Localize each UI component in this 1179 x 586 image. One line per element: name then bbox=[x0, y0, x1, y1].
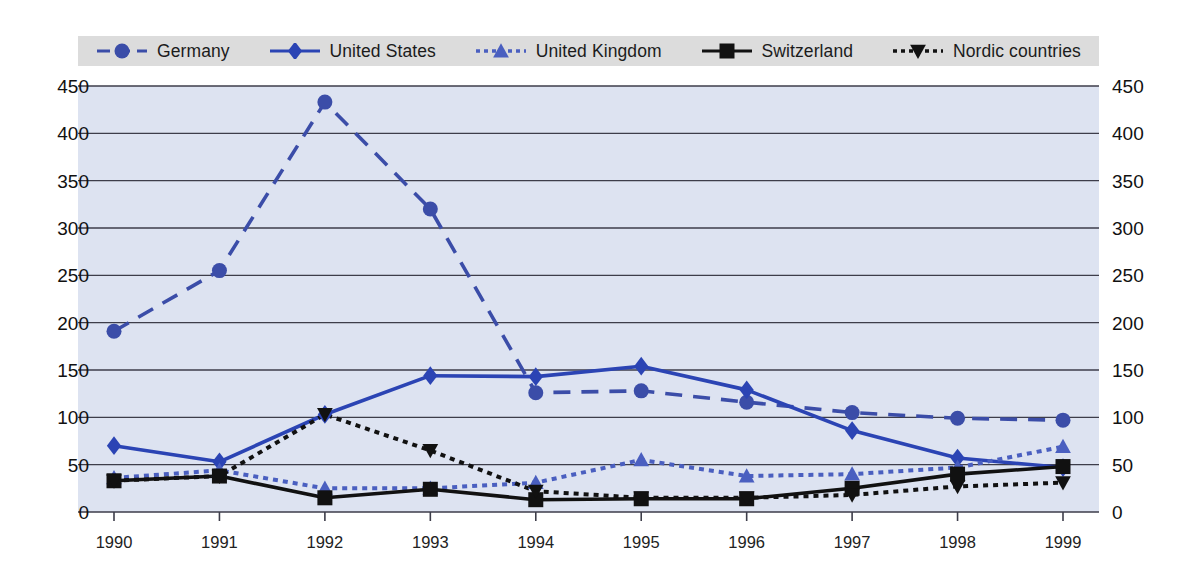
y-axis-tick-label-left: 200 bbox=[29, 314, 89, 333]
plot-canvas bbox=[78, 86, 1099, 512]
data-point-marker bbox=[212, 263, 227, 278]
legend-swatch-triangle-down-icon bbox=[892, 43, 944, 59]
y-axis-tick-label-left: 250 bbox=[29, 266, 89, 285]
data-point-marker bbox=[740, 381, 754, 400]
x-axis-tick-label: 1999 bbox=[1028, 533, 1098, 552]
y-axis-tick-label-right: 200 bbox=[1112, 314, 1172, 333]
chart-legend: GermanyUnited StatesUnited KingdomSwitze… bbox=[78, 36, 1099, 66]
legend-swatch-circle-icon bbox=[96, 43, 148, 59]
y-axis-tick-label-left: 0 bbox=[29, 503, 89, 522]
legend-swatch-square-icon bbox=[701, 43, 753, 59]
y-axis-tick-label-right: 450 bbox=[1112, 77, 1172, 96]
x-axis-tick-label: 1992 bbox=[290, 533, 360, 552]
y-axis-tick-label-right: 150 bbox=[1112, 361, 1172, 380]
legend-label: Nordic countries bbox=[953, 41, 1081, 62]
data-point-marker bbox=[423, 482, 438, 497]
y-axis-tick-label-right: 350 bbox=[1112, 172, 1172, 191]
x-axis-tick-label: 1991 bbox=[184, 533, 254, 552]
x-axis-tick-label: 1995 bbox=[606, 533, 676, 552]
legend-label: United Kingdom bbox=[536, 41, 662, 62]
y-axis-tick-label-left: 50 bbox=[29, 456, 89, 475]
data-point-marker bbox=[845, 421, 859, 440]
data-point-marker bbox=[423, 366, 437, 385]
legend-swatch-triangle-up-icon bbox=[475, 43, 527, 59]
y-axis-tick-label-left: 300 bbox=[29, 219, 89, 238]
x-axis-tick-label: 1996 bbox=[712, 533, 782, 552]
data-point-marker bbox=[423, 202, 438, 217]
data-point-marker bbox=[634, 383, 649, 398]
data-point-marker bbox=[950, 480, 966, 494]
x-axis-tick-label: 1993 bbox=[395, 533, 465, 552]
data-point-marker bbox=[317, 490, 332, 505]
y-axis-tick-label-right: 100 bbox=[1112, 408, 1172, 427]
data-point-marker bbox=[528, 385, 543, 400]
legend-item-united-kingdom[interactable]: United Kingdom bbox=[475, 41, 662, 62]
legend-label: United States bbox=[330, 41, 436, 62]
x-axis-tick-label: 1998 bbox=[923, 533, 993, 552]
data-point-marker bbox=[107, 324, 122, 339]
y-axis-tick-label-right: 400 bbox=[1112, 124, 1172, 143]
data-point-marker bbox=[287, 43, 301, 59]
y-axis-tick-label-right: 300 bbox=[1112, 219, 1172, 238]
legend-item-united-states[interactable]: United States bbox=[269, 41, 436, 62]
y-axis-tick-label-left: 150 bbox=[29, 361, 89, 380]
plot-area bbox=[78, 86, 1099, 512]
data-point-marker bbox=[950, 467, 965, 482]
data-point-marker bbox=[634, 357, 648, 376]
data-point-marker bbox=[107, 436, 121, 455]
data-point-marker bbox=[719, 44, 734, 59]
legend-item-switzerland[interactable]: Switzerland bbox=[701, 41, 854, 62]
y-axis-tick-label-right: 50 bbox=[1112, 456, 1172, 475]
legend-item-nordic-countries[interactable]: Nordic countries bbox=[892, 41, 1081, 62]
y-axis-tick-label-right: 0 bbox=[1112, 503, 1172, 522]
legend-label: Switzerland bbox=[762, 41, 854, 62]
x-axis-tick-label: 1994 bbox=[501, 533, 571, 552]
x-axis-tick-label: 1997 bbox=[817, 533, 887, 552]
data-point-marker bbox=[845, 405, 860, 420]
data-point-marker bbox=[1056, 459, 1071, 474]
data-point-marker bbox=[633, 452, 649, 466]
data-point-marker bbox=[950, 411, 965, 426]
y-axis-tick-label-left: 400 bbox=[29, 124, 89, 143]
x-axis-tick-label: 1990 bbox=[79, 533, 149, 552]
legend-item-germany[interactable]: Germany bbox=[96, 41, 230, 62]
y-axis-tick-label-right: 250 bbox=[1112, 266, 1172, 285]
y-axis-tick-label-left: 100 bbox=[29, 408, 89, 427]
legend-label: Germany bbox=[157, 41, 230, 62]
legend-swatch-diamond-icon bbox=[269, 43, 321, 59]
chart-page: GermanyUnited StatesUnited KingdomSwitze… bbox=[0, 0, 1179, 586]
y-axis-tick-label-left: 350 bbox=[29, 172, 89, 191]
y-axis-tick-label-left: 450 bbox=[29, 77, 89, 96]
data-point-marker bbox=[1056, 413, 1071, 428]
data-point-marker bbox=[844, 466, 860, 480]
data-point-marker bbox=[317, 95, 332, 110]
data-point-marker bbox=[115, 44, 130, 59]
